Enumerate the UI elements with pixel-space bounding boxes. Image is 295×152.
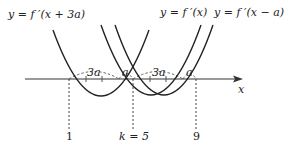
bottom-label-1: 1 — [66, 130, 73, 143]
bottom-label-k: k = 5 — [119, 130, 149, 143]
label-curve-middle: y = f ′(x) — [159, 6, 207, 19]
label-curve-right: y = f ′(x − a) — [213, 6, 284, 19]
gap-label-a-right: a — [186, 66, 193, 79]
bottom-label-9: 9 — [193, 130, 200, 143]
label-curve-left: y = f ′(x + 3a) — [7, 8, 85, 21]
graph-canvas: y = f ′(x + 3a) y = f ′(x) y = f ′(x − a… — [0, 0, 295, 152]
curve-f-prime-x-minus-a — [115, 25, 213, 95]
gap-label-3a-right: 3a — [152, 66, 166, 79]
gap-label-3a-left: 3a — [87, 66, 101, 79]
curve-f-prime-x-plus-3a — [53, 30, 149, 96]
curve-f-prime-x — [101, 25, 201, 95]
gap-label-a-left: a — [122, 66, 129, 79]
axis-label-x: x — [238, 83, 245, 96]
